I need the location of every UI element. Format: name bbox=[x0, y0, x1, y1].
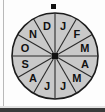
sector-label-december: D bbox=[43, 20, 51, 32]
screenshot-root: JFMAMJJASOND bbox=[0, 0, 105, 112]
spinner-graphic: JFMAMJJASOND bbox=[10, 11, 100, 101]
left-edge-rule bbox=[3, 0, 4, 112]
sector-label-may: M bbox=[72, 72, 81, 84]
spinner-wheel[interactable]: JFMAMJJASOND bbox=[10, 11, 100, 101]
sector-label-october: O bbox=[21, 42, 30, 54]
bottom-edge-band bbox=[0, 108, 105, 112]
center-hub bbox=[52, 53, 58, 59]
sector-label-july: J bbox=[44, 80, 50, 92]
sector-label-september: S bbox=[21, 58, 28, 70]
sector-label-april: A bbox=[81, 58, 89, 70]
sector-label-june: J bbox=[60, 80, 66, 92]
pointer-dot bbox=[51, 4, 56, 9]
sector-label-january: J bbox=[60, 20, 66, 32]
sector-label-august: A bbox=[29, 72, 37, 84]
sector-label-february: F bbox=[74, 28, 81, 40]
sector-label-november: N bbox=[29, 28, 37, 40]
sector-label-march: M bbox=[80, 42, 89, 54]
